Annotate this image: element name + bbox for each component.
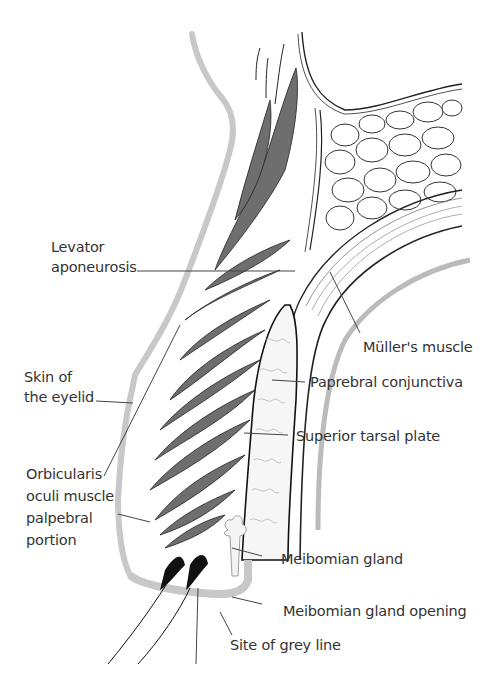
label-line: portion <box>26 529 114 551</box>
label-superior-tarsal-plate: Superior tarsal plate <box>296 426 440 446</box>
skin-outline <box>118 34 233 575</box>
label-palpebral-conjunctiva: Paprebral conjunctiva <box>310 372 463 392</box>
label-line: Levator <box>51 237 137 257</box>
label-skin-of-eyelid: Skin of the eyelid <box>24 367 94 407</box>
orbital-septum <box>302 32 462 110</box>
label-line: oculi muscle <box>26 485 114 507</box>
label-muller-muscle: Müller's muscle <box>363 337 473 357</box>
label-meibomian-gland: Meibomian gland <box>281 549 403 569</box>
fiber-wisps <box>256 44 284 104</box>
label-levator-aponeurosis: Levator aponeurosis <box>51 237 137 277</box>
label-line: the eyelid <box>24 387 94 407</box>
label-meibomian-gland-opening: Meibomian gland opening <box>283 601 467 621</box>
label-line: palpebral <box>26 507 114 529</box>
label-orbicularis-oculi: Orbicularis oculi muscle palpebral porti… <box>26 463 114 551</box>
eyelashes <box>108 555 208 664</box>
label-line: aponeurosis <box>51 257 137 277</box>
label-line: Skin of <box>24 367 94 387</box>
label-site-of-grey-line: Site of grey line <box>230 635 341 655</box>
label-line: Orbicularis <box>26 463 114 485</box>
